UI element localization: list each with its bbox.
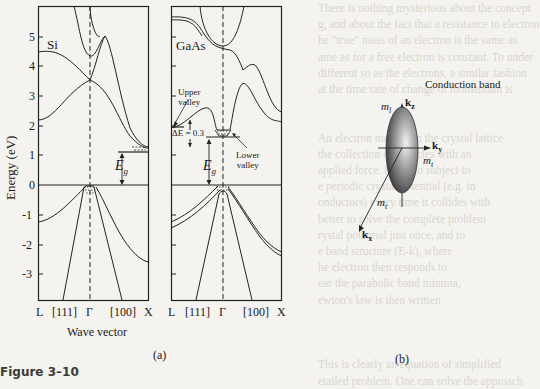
y-tick: 4 <box>29 59 35 74</box>
delta-e-label: ΔE = 0.3 <box>172 128 204 138</box>
y-tick: 5 <box>29 30 35 45</box>
gaas-valence-band-100 <box>228 187 282 252</box>
y-tick: -1 <box>22 208 32 223</box>
gaas-title: GaAs <box>176 38 206 54</box>
gaas-gap-label: Eg <box>203 158 216 176</box>
si-lower-conduction-band <box>38 80 148 148</box>
x-axis-label: Wave vector <box>67 325 127 340</box>
y-tick: 1 <box>29 148 35 163</box>
upper-valley-label: Upper valley <box>178 87 201 107</box>
transverse-mass-label-y: mt <box>423 154 433 169</box>
gaas-gamma-upper-band <box>200 6 244 46</box>
y-tick: -2 <box>22 238 32 253</box>
conduction-band-ellipsoid <box>359 103 431 232</box>
gaas-valence-band-L <box>171 186 218 222</box>
si-valence-band-100-steep <box>94 187 122 300</box>
constant-energy-ellipsoid <box>386 107 418 193</box>
kx-label: kx <box>362 228 372 243</box>
kz-label: kz <box>405 96 415 111</box>
si-heavy-hole-band <box>38 186 94 222</box>
figure-caption: Figure 3–10 <box>0 365 79 379</box>
y-tick: -3 <box>22 267 32 282</box>
si-light-hole-band <box>63 187 84 300</box>
y-tick: 3 <box>29 89 35 104</box>
si-title: Si <box>47 37 58 53</box>
ky-label: ky <box>432 139 442 154</box>
y-tick: 0 <box>29 178 35 193</box>
panel-a-label: (a) <box>153 348 166 363</box>
y-axis-label: Energy (eV) <box>3 136 19 200</box>
si-gap-label: Eg <box>115 158 128 176</box>
transverse-mass-label-x: mt <box>377 196 387 211</box>
lower-valley-label: Lower valley <box>236 150 260 170</box>
panel-b-label: (b) <box>395 352 409 367</box>
longitudinal-mass-label: ml <box>381 100 391 115</box>
gaas-light-hole-band <box>196 191 252 300</box>
si-upper-conduction-band <box>74 6 148 147</box>
conduction-band-title: Conduction band <box>425 78 500 90</box>
y-tick: 2 <box>29 119 35 134</box>
